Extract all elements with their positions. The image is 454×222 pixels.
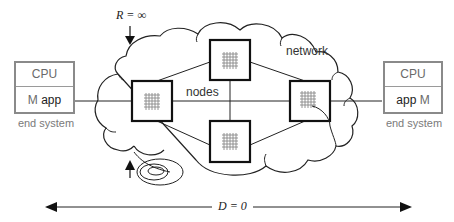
app-label-right: app: [396, 93, 416, 107]
cpu-label-left: CPU: [16, 63, 73, 87]
memory-label-left: M: [28, 93, 38, 107]
link-bottom-right: [250, 121, 305, 145]
node-bottom: [210, 121, 250, 162]
cpu-label-right: CPU: [385, 63, 441, 87]
link-left-top: [157, 62, 210, 81]
nodes-label: nodes: [186, 85, 219, 99]
app-label-left: app: [41, 93, 61, 107]
memory-app-right: app M: [385, 86, 441, 112]
end-system-right: CPU app M: [383, 61, 443, 114]
memory-app-left: M app: [16, 86, 73, 112]
link-top-right: [250, 62, 305, 81]
distance-label: D = 0: [215, 199, 250, 214]
network-diagram: R = ∞ network nodes D = 0 CPU M app end …: [0, 0, 454, 222]
arrow-up-icon: [125, 160, 135, 170]
link-left-bottom: [157, 121, 210, 145]
resistance-label: R = ∞: [116, 8, 146, 23]
node-top: [210, 40, 250, 80]
end-system-caption-left: end system: [14, 117, 78, 129]
loop-spiral: [134, 152, 183, 185]
end-system-left: CPU M app: [14, 61, 75, 114]
arrow-right-icon: [400, 202, 412, 212]
arrow-left-icon: [45, 202, 57, 212]
memory-label-right: M: [420, 93, 430, 107]
network-label: network: [286, 44, 328, 58]
node-left: [132, 81, 172, 121]
node-right: [290, 81, 336, 146]
end-system-caption-right: end system: [381, 117, 447, 129]
